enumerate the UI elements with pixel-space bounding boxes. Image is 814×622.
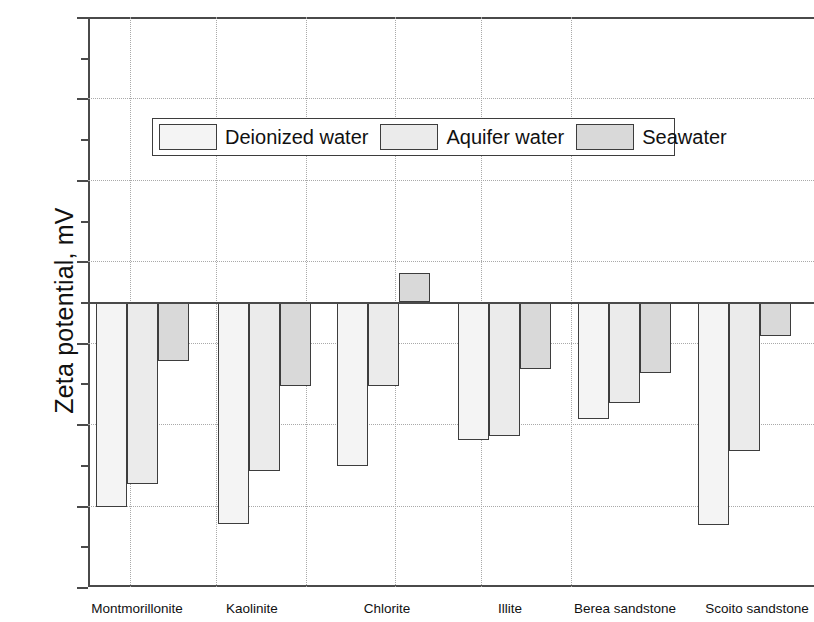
bar — [640, 302, 671, 373]
x-tick-label: Scoito sandstone — [667, 601, 814, 616]
bar — [729, 302, 760, 451]
bar — [249, 302, 280, 471]
y-tick-major — [77, 261, 88, 263]
y-tick-major — [77, 17, 88, 19]
legend: Deionized water Aquifer water Seawater — [152, 118, 675, 156]
y-tick-minor — [81, 465, 88, 467]
y-axis-title: Zeta potential, mV — [50, 151, 79, 471]
bar — [399, 273, 430, 302]
gridline-y — [88, 98, 814, 99]
legend-label-aquifer-water: Aquifer water — [446, 126, 564, 149]
legend-item-1[interactable]: Aquifer water — [374, 119, 570, 155]
bar — [218, 302, 249, 524]
legend-label-deionized-water: Deionized water — [225, 126, 368, 149]
bar — [158, 302, 189, 361]
bar — [698, 302, 729, 525]
chart-root: Zeta potential, mV 3525155-5-15-25-35 Mo… — [0, 0, 814, 622]
bar — [578, 302, 609, 419]
y-tick-minor — [81, 221, 88, 223]
y-tick-major — [77, 98, 88, 100]
y-tick-minor — [81, 383, 88, 385]
y-tick-minor — [81, 302, 88, 304]
bar — [760, 302, 791, 336]
y-tick-minor — [81, 139, 88, 141]
y-tick-minor — [81, 546, 88, 548]
legend-item-0[interactable]: Deionized water — [153, 119, 374, 155]
plot-area — [88, 17, 814, 587]
legend-label-seawater: Seawater — [642, 126, 727, 149]
bar — [337, 302, 368, 466]
y-tick-major — [77, 180, 88, 182]
y-tick-major — [77, 424, 88, 426]
gridline-y — [88, 261, 814, 262]
bar — [520, 302, 551, 369]
bar — [96, 302, 127, 507]
bar — [280, 302, 311, 386]
legend-swatch-aquifer-water — [380, 124, 438, 150]
bar — [489, 302, 520, 436]
y-tick-major — [77, 506, 88, 508]
bar — [458, 302, 489, 440]
y-tick-major — [77, 343, 88, 345]
bar — [609, 302, 640, 403]
gridline-y — [88, 180, 814, 181]
legend-swatch-deionized-water — [159, 124, 217, 150]
legend-swatch-seawater — [576, 124, 634, 150]
legend-item-2[interactable]: Seawater — [570, 119, 733, 155]
axis-line-bottom — [88, 585, 814, 587]
y-tick-minor — [81, 58, 88, 60]
y-tick-major — [77, 587, 88, 589]
bar — [127, 302, 158, 484]
axis-line-top — [88, 17, 814, 19]
zero-line — [88, 302, 814, 304]
bar — [368, 302, 399, 386]
